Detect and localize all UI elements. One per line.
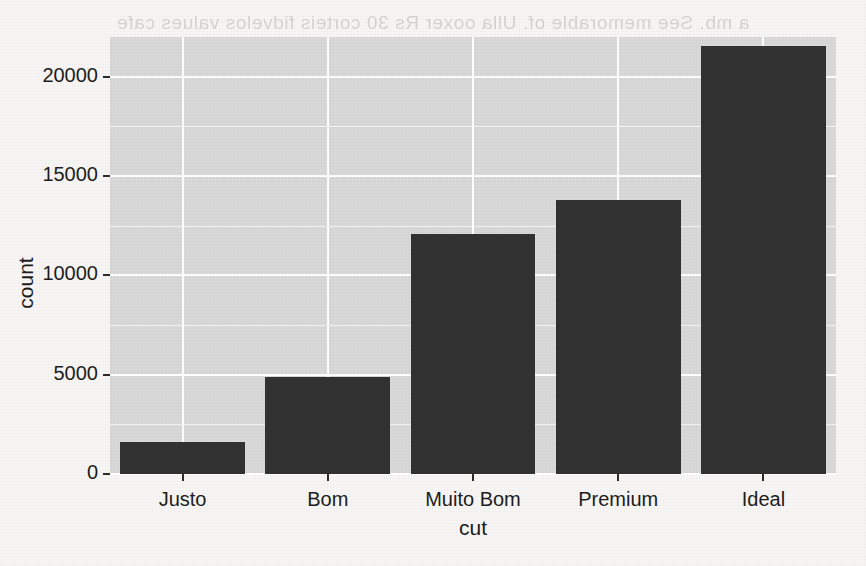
x-tick-mark-premium [617, 474, 619, 481]
x-axis-title: cut [110, 516, 836, 540]
x-tick-label-premium: Premium [546, 488, 691, 511]
bar-chart-figure: a mb. See memorable of. Ulla ooxer Rs 30… [0, 0, 866, 566]
y-tick-mark-5000 [103, 374, 110, 376]
y-axis-title: count [10, 0, 42, 566]
bleed-text-line-1: a mb. See memorable of. Ulla ooxer Rs 30… [0, 12, 866, 34]
bar-muito-bom[interactable] [411, 234, 536, 474]
y-tick-label-0: 0 [87, 461, 98, 484]
x-tick-label-muito-bom: Muito Bom [400, 488, 545, 511]
y-tick-mark-10000 [103, 274, 110, 276]
x-axis-title-label: cut [459, 516, 487, 539]
bar-justo[interactable] [120, 442, 245, 474]
y-tick-label-10000: 10000 [42, 262, 98, 285]
x-tick-mark-bom [327, 474, 329, 481]
x-tick-label-bom: Bom [255, 488, 400, 511]
bar-ideal[interactable] [701, 46, 826, 474]
bar-series [110, 37, 836, 474]
bar-bom[interactable] [265, 377, 390, 474]
y-tick-label-15000: 15000 [42, 163, 98, 186]
y-axis-title-label: count [14, 257, 38, 308]
y-tick-mark-20000 [103, 76, 110, 78]
x-tick-label-justo: Justo [110, 488, 255, 511]
y-tick-mark-0 [103, 473, 110, 475]
y-tick-label-5000: 5000 [54, 362, 99, 385]
y-tick-mark-15000 [103, 175, 110, 177]
y-tick-label-20000: 20000 [42, 64, 98, 87]
x-tick-mark-justo [182, 474, 184, 481]
x-tick-label-ideal: Ideal [691, 488, 836, 511]
x-tick-mark-ideal [762, 474, 764, 481]
plot-panel [110, 37, 836, 474]
bar-premium[interactable] [556, 200, 681, 474]
x-tick-mark-muito-bom [472, 474, 474, 481]
